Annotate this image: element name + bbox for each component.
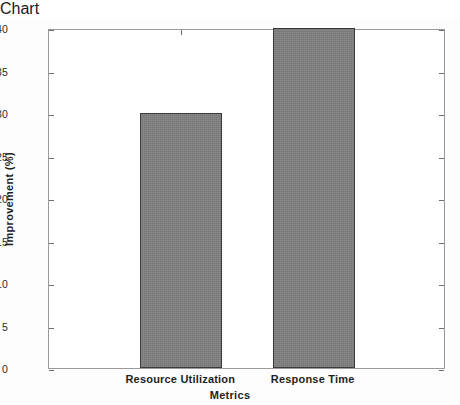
bar <box>140 113 222 368</box>
y-tick-mark <box>49 158 54 159</box>
x-tick-label: Resource Utilization <box>125 373 235 385</box>
y-tick-mark <box>49 243 54 244</box>
y-tick-mark <box>439 200 444 201</box>
bar <box>273 28 355 368</box>
y-tick-mark <box>49 73 54 74</box>
y-tick-mark <box>439 370 444 371</box>
x-tick-mark <box>181 30 182 35</box>
y-tick-label: 35 <box>0 66 8 78</box>
y-tick-label: 0 <box>2 363 8 375</box>
y-tick-label: 40 <box>0 23 8 35</box>
y-tick-mark <box>49 328 54 329</box>
y-tick-label: 10 <box>0 278 8 290</box>
y-tick-mark <box>49 200 54 201</box>
y-tick-mark <box>439 328 444 329</box>
y-tick-mark <box>439 115 444 116</box>
y-tick-mark <box>49 285 54 286</box>
y-tick-mark <box>439 73 444 74</box>
y-tick-mark <box>439 158 444 159</box>
y-tick-mark <box>49 115 54 116</box>
y-tick-mark <box>49 370 54 371</box>
bar-chart-figure: 0510152025303540 Resource UtilizationRes… <box>0 18 460 405</box>
y-tick-mark <box>49 30 54 31</box>
plot-area <box>48 29 445 369</box>
y-axis-title: Improvement (%) <box>3 152 15 246</box>
y-tick-mark <box>439 243 444 244</box>
y-tick-label: 30 <box>0 108 8 120</box>
x-tick-label: Response Time <box>271 373 355 385</box>
y-tick-mark <box>439 285 444 286</box>
x-axis-title: Metrics <box>0 389 460 401</box>
y-tick-mark <box>439 30 444 31</box>
y-tick-label: 5 <box>2 321 8 333</box>
